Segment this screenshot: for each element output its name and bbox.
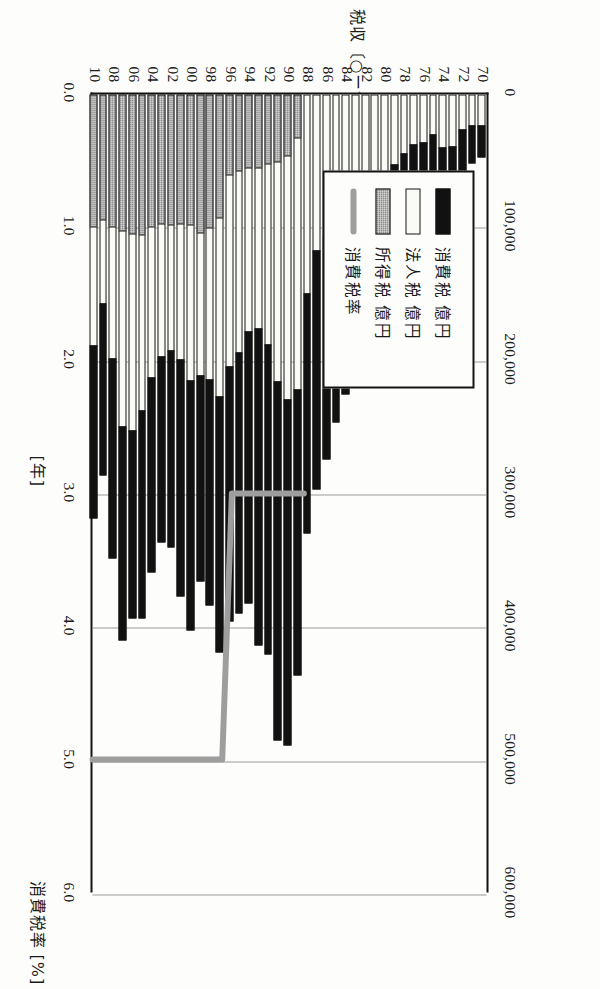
bar-segment-corp: [167, 224, 175, 351]
legend-swatch-corp: [406, 188, 421, 234]
bar-segment-income: [118, 94, 126, 231]
bar-segment-corp: [438, 94, 446, 148]
x-axis-tick-year: 96: [223, 66, 239, 82]
bar-segment-income: [138, 94, 146, 235]
x-axis-tick-year: 90: [281, 66, 297, 82]
bar-segment-cons: [167, 350, 175, 547]
legend-label: 消費税 億円: [432, 246, 454, 340]
bar-segment-cons: [283, 399, 291, 746]
y2-axis-tick: 5.0: [61, 749, 77, 769]
y2-axis-tick: 0.0: [61, 82, 77, 102]
bar-segment-corp: [108, 226, 116, 359]
bar-segment-income: [273, 94, 281, 162]
gridline: [92, 894, 486, 895]
bar-segment-income: [215, 94, 223, 218]
bar-row: [273, 94, 281, 739]
bar-segment-income: [283, 94, 291, 156]
gridline: [92, 761, 486, 762]
legend-label: 法人税 億円: [402, 246, 424, 340]
bar-segment-corp: [254, 167, 262, 329]
bar-segment-corp: [390, 94, 398, 165]
bar-segment-income: [264, 94, 272, 164]
y-axis-tick: 200,000: [502, 333, 518, 385]
bar-segment-corp: [147, 226, 155, 378]
legend-item: 法人税 億円: [398, 188, 428, 370]
bar-segment-corp: [215, 217, 223, 397]
bar-row: [128, 94, 136, 617]
bar-segment-corp: [419, 94, 427, 143]
bar-row: [215, 94, 223, 651]
bar-segment-corp: [196, 232, 204, 376]
bar-segment-cons: [293, 389, 301, 675]
legend-label: 所得税 億円: [372, 246, 394, 340]
bar-segment-cons: [176, 359, 184, 596]
bar-segment-corp: [264, 163, 272, 346]
bar-segment-cons: [196, 375, 204, 581]
legend-label: 消費税率: [342, 246, 364, 316]
y-axis-tick: 500,000: [502, 733, 518, 785]
bar-row: [176, 94, 184, 595]
legend-swatch-income: [376, 188, 391, 234]
bar-segment-income: [99, 94, 107, 220]
bar-segment-corp: [138, 234, 146, 411]
bar-segment-corp: [380, 94, 388, 173]
bar-segment-corp: [99, 219, 107, 304]
bar-segment-cons: [108, 358, 116, 558]
legend-swatch-cons: [436, 188, 451, 234]
bar-segment-corp: [409, 94, 417, 145]
bar-segment-cons: [264, 344, 272, 653]
bar-row: [147, 94, 155, 571]
bar-row: [108, 94, 116, 557]
bar-segment-cons: [215, 396, 223, 652]
bar-row: [312, 94, 320, 488]
x-axis-tick-year: 94: [242, 66, 258, 82]
y2-axis-tick: 2.0: [61, 349, 77, 369]
bar-segment-income: [128, 94, 136, 234]
rotated-chart-container: 税収〔○ー億円〕 [年] 消費税率 [%] 0100,000200,000300…: [0, 0, 600, 989]
x-axis-tick-year: 98: [204, 66, 220, 82]
y-axis-tick: 0: [502, 88, 518, 96]
x-axis-title-label: [年]: [27, 455, 46, 486]
x-axis-tick-year: 10: [87, 66, 103, 82]
bar-segment-corp: [448, 94, 456, 147]
bar-segment-cons: [225, 366, 233, 621]
bar-segment-corp: [118, 230, 126, 427]
bar-row: [293, 94, 301, 674]
x-axis-tick-year: 08: [107, 66, 123, 82]
bar-segment-income: [205, 94, 213, 228]
legend-swatch-rate: [350, 188, 356, 234]
bar-segment-cons: [273, 381, 281, 741]
x-axis-tick-year: 76: [417, 66, 433, 82]
bar-row: [244, 94, 252, 602]
y2-axis-title: 消費税率 [%]: [27, 880, 44, 985]
bar-row: [89, 94, 97, 517]
y-axis-title-label: 税収: [347, 8, 366, 42]
bar-segment-corp: [244, 167, 252, 332]
x-axis-tick-year: 86: [320, 66, 336, 82]
bar-segment-corp: [205, 227, 213, 379]
bar-segment-corp: [89, 226, 97, 346]
bar-segment-corp: [312, 94, 320, 251]
bar-segment-corp: [176, 223, 184, 360]
bar-segment-cons: [468, 125, 476, 163]
bar-segment-cons: [254, 328, 262, 645]
bar-row: [196, 94, 204, 580]
bar-row: [99, 94, 107, 474]
x-axis-tick-year: 74: [437, 66, 453, 82]
bar-row: [468, 94, 476, 162]
y2-axis-tick: 6.0: [61, 882, 77, 902]
bar-row: [205, 94, 213, 604]
legend-item: 消費税 億円: [428, 188, 458, 370]
bar-segment-income: [235, 94, 243, 171]
bar-row: [118, 94, 126, 639]
bar-row: [167, 94, 175, 546]
bar-segment-corp: [361, 94, 369, 181]
x-axis-tick-year: 80: [378, 66, 394, 82]
y2-axis-tick: 3.0: [61, 482, 77, 502]
bar-segment-corp: [477, 94, 485, 126]
x-axis-tick-year: 92: [262, 66, 278, 82]
bar-segment-corp: [429, 94, 437, 135]
x-axis-tick-year: 88: [301, 66, 317, 82]
bar-row: [138, 94, 146, 617]
bar-row: [477, 94, 485, 156]
